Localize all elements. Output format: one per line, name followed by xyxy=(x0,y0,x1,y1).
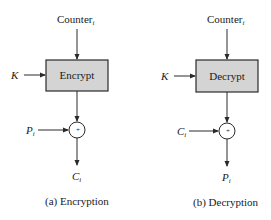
xor-symbol: + xyxy=(226,125,229,137)
ciphertext-label: Ci xyxy=(72,170,81,186)
counter-label: Counteri xyxy=(57,13,94,29)
ciphertext-label: Ci xyxy=(177,125,186,141)
decryption-diagram xyxy=(174,29,258,166)
plaintext-subscript: i xyxy=(229,177,231,185)
counter-text: Counter xyxy=(57,13,92,25)
decryption-caption: (b) Decryption xyxy=(193,196,258,208)
key-label: K xyxy=(161,70,168,82)
decrypt-block-label: Decrypt xyxy=(196,60,258,92)
encryption-diagram xyxy=(24,29,108,165)
xor-symbol: + xyxy=(76,124,79,136)
plaintext-text: P xyxy=(26,124,33,136)
ciphertext-subscript: i xyxy=(79,176,81,184)
plaintext-label: Pi xyxy=(26,124,35,140)
counter-subscript: i xyxy=(242,19,244,27)
encryption-caption: (a) Encryption xyxy=(45,195,109,207)
ctr-mode-diagram xyxy=(0,0,271,220)
counter-label: Counteri xyxy=(207,13,244,29)
key-label: K xyxy=(11,69,18,81)
plaintext-subscript: i xyxy=(33,130,35,138)
plaintext-text: P xyxy=(222,171,229,183)
encrypt-block-label: Encrypt xyxy=(46,60,108,91)
plaintext-label: Pi xyxy=(222,171,231,187)
ciphertext-subscript: i xyxy=(184,131,186,139)
counter-text: Counter xyxy=(207,13,242,25)
counter-subscript: i xyxy=(92,19,94,27)
